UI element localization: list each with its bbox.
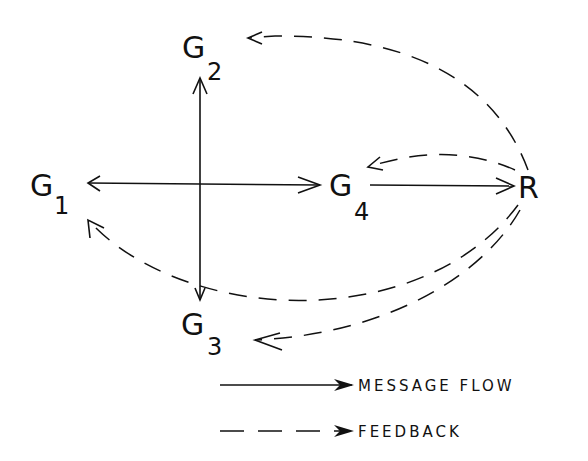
diagram-canvas: G 1 G 2 G 3 G 4 R: [0, 0, 588, 461]
legend-message-flow: MESSAGE FLOW: [220, 377, 515, 395]
node-g3: G 3: [181, 307, 222, 361]
edge-g4-r: [370, 185, 514, 186]
node-g4-sub: 4: [354, 198, 369, 226]
feedback-r-g1: [90, 205, 518, 300]
node-r-label: R: [518, 170, 539, 205]
node-g4-label: G: [329, 168, 352, 203]
feedback-r-g3: [255, 210, 520, 340]
legend-feedback: FEEDBACK: [220, 423, 462, 441]
node-g3-label: G: [181, 307, 204, 342]
legend: MESSAGE FLOW FEEDBACK: [220, 377, 515, 441]
feedback-edges: [88, 32, 528, 350]
legend-message-flow-label: MESSAGE FLOW: [358, 377, 515, 395]
edge-g1-g4: [88, 183, 320, 185]
node-g3-sub: 3: [207, 333, 222, 361]
node-r: R: [518, 170, 539, 205]
node-g1: G 1: [30, 168, 69, 220]
node-g4: G 4: [329, 168, 369, 226]
node-g2-sub: 2: [207, 58, 222, 86]
node-g2-label: G: [182, 30, 205, 65]
feedback-r-g4: [368, 155, 515, 170]
node-g1-sub: 1: [54, 192, 69, 220]
arrowhead-fb-g3: [255, 333, 282, 350]
node-g2: G 2: [182, 30, 222, 86]
node-g1-label: G: [30, 168, 53, 203]
feedback-r-g2: [248, 36, 528, 170]
legend-feedback-label: FEEDBACK: [358, 423, 462, 441]
